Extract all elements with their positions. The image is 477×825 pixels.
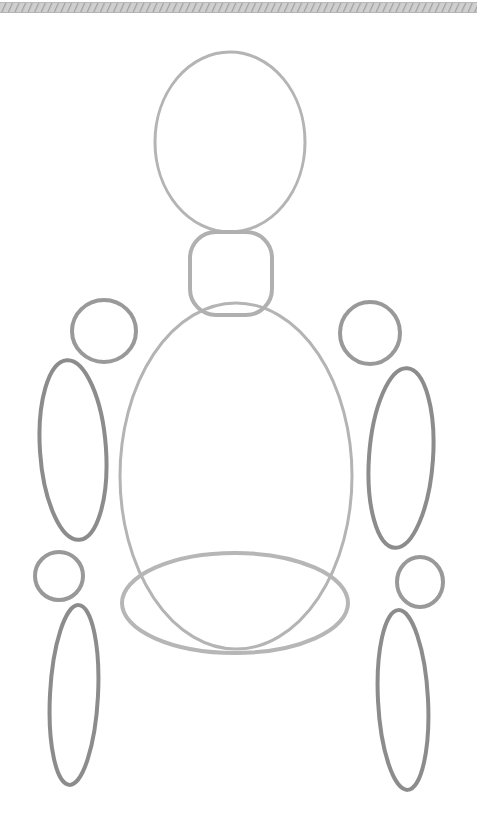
shoulder-left-circle: [72, 300, 136, 362]
upperarm-right-ellipse: [363, 366, 439, 550]
shape-group: [34, 52, 443, 791]
top-hatched-band: [0, 2, 477, 13]
forearm-left-ellipse: [45, 604, 102, 786]
elbow-left-circle: [35, 552, 83, 600]
shoulder-right-circle: [340, 302, 400, 364]
upperarm-left-ellipse: [34, 358, 112, 542]
drawing-canvas: [0, 0, 477, 825]
head-ellipse: [155, 52, 305, 232]
forearm-right-ellipse: [373, 609, 432, 791]
elbow-right-circle: [397, 557, 443, 607]
torso-ellipse: [120, 303, 352, 649]
figure-construction-sketch: [0, 0, 477, 825]
